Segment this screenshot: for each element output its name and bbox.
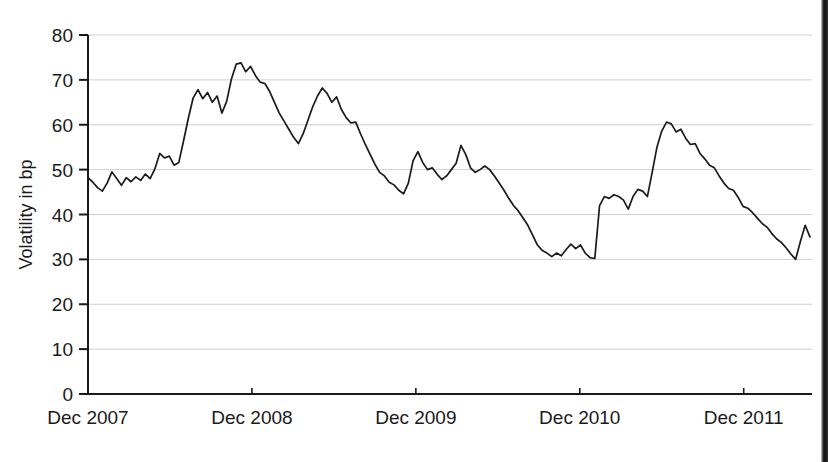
y-axis-tick-label: 30 — [52, 249, 73, 270]
y-axis-tick-label: 50 — [52, 160, 73, 181]
x-axis-tick-label: Dec 2008 — [211, 407, 292, 428]
y-axis-tick-label: 20 — [52, 294, 73, 315]
x-axis-tick-label: Dec 2011 — [704, 407, 784, 428]
x-axis-tick-label: Dec 2007 — [47, 407, 128, 428]
y-axis-tick-label: 70 — [52, 70, 73, 91]
volatility-chart-figure: 01020304050607080 Dec 2007Dec 2008Dec 20… — [0, 0, 828, 462]
y-axis-tick-label: 40 — [52, 205, 73, 226]
y-axis-title: Volatility in bp — [16, 159, 36, 269]
y-axis-tick-label: 80 — [52, 25, 73, 46]
y-axis-tick-label: 60 — [52, 115, 73, 136]
scan-edge-artifact — [821, 0, 828, 462]
y-axis-tick-label: 10 — [52, 339, 73, 360]
y-axis-tick-labels: 01020304050607080 — [52, 25, 73, 405]
chart-background — [0, 0, 828, 462]
chart-canvas: 01020304050607080 Dec 2007Dec 2008Dec 20… — [0, 0, 828, 462]
x-axis-tick-label: Dec 2010 — [539, 407, 620, 428]
x-axis-tick-label: Dec 2009 — [375, 407, 456, 428]
y-axis-tick-label: 0 — [62, 384, 73, 405]
